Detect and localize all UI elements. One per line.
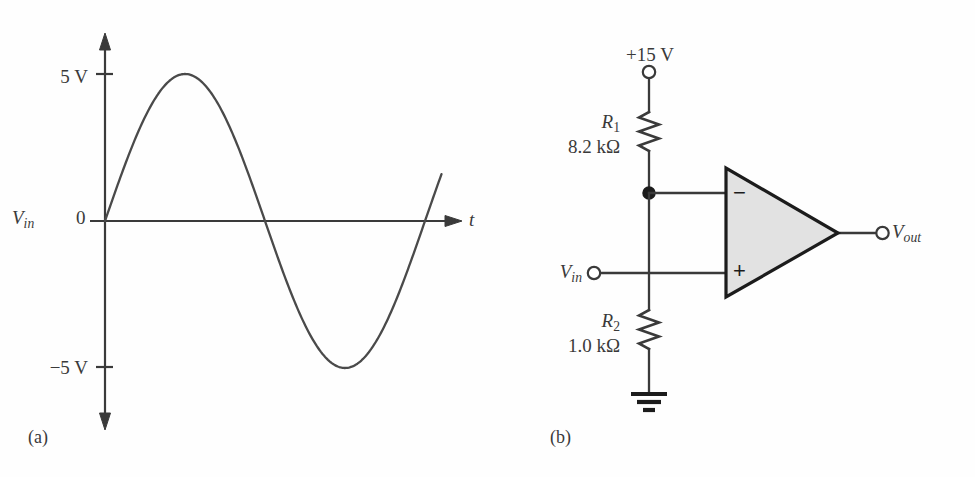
- panel-b-caption: (b): [550, 428, 571, 446]
- noninverting-input-sign: +: [733, 260, 746, 282]
- y-axis-label-top: 5 V: [14, 67, 88, 86]
- x-axis-label-t: t: [469, 210, 474, 229]
- resistor-r2-label: R2: [548, 311, 620, 330]
- y-axis-label-bottom: −5 V: [4, 358, 88, 377]
- figure-container: 5 V Vin 0 −5 V t (a): [0, 0, 975, 477]
- y-axis: [100, 33, 111, 430]
- input-label-vin: Vin: [514, 262, 582, 281]
- signal-label-vin: Vin: [12, 208, 34, 227]
- x-axis: [90, 216, 462, 227]
- inverting-input-sign: −: [733, 182, 746, 204]
- resistor-r2-symbol: [639, 310, 659, 349]
- panel-a-caption: (a): [28, 428, 48, 446]
- y-axis-label-zero: 0: [76, 208, 86, 227]
- panel-b-circuit: +15 V R1 8.2 kΩ R2 1.0 kΩ Vin Vout − + (…: [490, 0, 975, 477]
- resistor-r1-value: 8.2 kΩ: [528, 137, 620, 156]
- resistor-r1-symbol: [639, 112, 659, 151]
- panel-a-waveform: 5 V Vin 0 −5 V t (a): [0, 0, 490, 477]
- resistor-r2-value: 1.0 kΩ: [528, 336, 620, 355]
- output-terminal-node: [876, 227, 888, 239]
- supply-voltage-label: +15 V: [600, 45, 700, 64]
- input-terminal-node: [588, 267, 600, 279]
- supply-terminal-node: [643, 66, 655, 78]
- resistor-r1-label: R1: [548, 112, 620, 131]
- output-label-vout: Vout: [892, 222, 921, 241]
- ground-symbol: [631, 394, 667, 410]
